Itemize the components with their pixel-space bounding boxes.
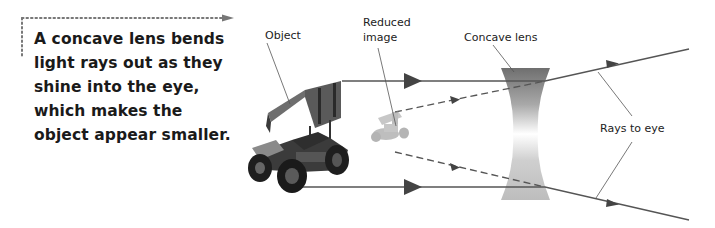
small-race-car-icon: [371, 111, 409, 142]
race-car-icon: [248, 81, 349, 193]
caption-line: shine into the eye,: [34, 75, 244, 99]
caption-line: which makes the: [34, 99, 244, 123]
caption-line: object appear smaller.: [34, 123, 244, 147]
label-concave-lens: Concave lens: [464, 30, 537, 45]
dashed-ray-arrowheads: [450, 96, 460, 171]
label-reduced-image-line2: image: [363, 30, 397, 45]
label-object: Object: [265, 28, 301, 43]
label-reduced-image-line1: Reduced: [363, 15, 411, 30]
caption-line: A concave lens bends: [34, 27, 244, 51]
caption-text: A concave lens bends light rays out as t…: [34, 27, 244, 147]
caption-line: light rays out as they: [34, 51, 244, 75]
label-rays-to-eye: Rays to eye: [600, 121, 664, 136]
concave-lens-icon: [501, 68, 550, 200]
